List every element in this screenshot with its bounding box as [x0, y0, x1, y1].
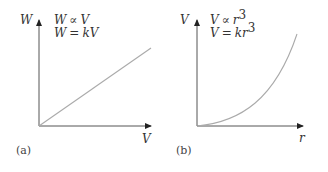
equation-constant: W=kV [54, 26, 100, 40]
equation-proportional: W∝V [54, 13, 90, 27]
cubic-curve [197, 34, 297, 126]
caption-a: (a) [16, 144, 31, 157]
y-axis-label: V [180, 13, 190, 27]
proportionality-diagram: W V W∝V W=kV (a) V r V∝r3 V=kr3 (b) [0, 0, 328, 172]
panel-a: W V W∝V W=kV (a) [16, 13, 152, 157]
linear-curve [39, 48, 151, 126]
caption-b: (b) [176, 144, 192, 157]
panel-b: V r V∝r3 V=kr3 (b) [176, 8, 306, 157]
x-axis-label: V [142, 132, 152, 146]
y-axis-label: W [20, 13, 34, 27]
equation-proportional: V∝r3 [210, 8, 246, 27]
x-axis-label: r [299, 131, 306, 145]
